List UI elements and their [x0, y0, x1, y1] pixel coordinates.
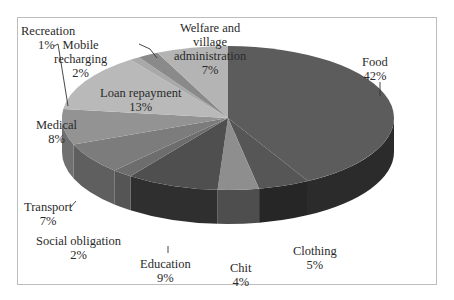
label-welfare-pct: 7% — [174, 63, 246, 77]
label-mobile-pct: 2% — [54, 66, 107, 80]
pie-side-chit — [218, 189, 260, 224]
label-transport-pct: 7% — [24, 214, 72, 228]
label-loan-pct: 13% — [100, 100, 182, 114]
label-clothing: Clothing 5% — [293, 244, 337, 272]
label-welfare-line1: Welfare and — [174, 21, 246, 35]
label-clothing-pct: 5% — [293, 258, 337, 272]
label-mobile-line1: Mobile — [54, 38, 107, 52]
label-social-name: Social obligation — [36, 234, 121, 248]
label-welfare-line2: village — [174, 35, 246, 49]
label-transport-name: Transport — [24, 200, 72, 214]
label-clothing-name: Clothing — [293, 244, 337, 258]
label-food-name: Food — [362, 55, 388, 69]
pie-side-social-obligation — [114, 170, 130, 210]
label-food-pct: 42% — [362, 69, 388, 83]
label-mobile-recharging: Mobile recharging 2% — [54, 38, 107, 80]
label-transport: Transport 7% — [24, 200, 72, 228]
label-welfare: Welfare and village administration 7% — [174, 21, 246, 77]
label-medical-pct: 8% — [36, 132, 77, 146]
label-education-pct: 9% — [140, 271, 191, 285]
label-medical: Medical 8% — [36, 118, 77, 146]
label-welfare-line3: administration — [174, 49, 246, 63]
label-food: Food 42% — [362, 55, 388, 83]
label-social-obligation: Social obligation 2% — [36, 234, 121, 262]
label-mobile-line2: recharging — [54, 52, 107, 66]
label-chit-name: Chit — [230, 261, 252, 275]
label-recreation-name: Recreation — [21, 24, 75, 38]
label-education: Education 9% — [140, 257, 191, 285]
label-chit-pct: 4% — [230, 275, 252, 289]
label-chit: Chit 4% — [230, 261, 252, 289]
label-education-name: Education — [140, 257, 191, 271]
label-social-pct: 2% — [36, 248, 121, 262]
label-medical-name: Medical — [36, 118, 77, 132]
label-loan-name: Loan repayment — [100, 86, 182, 100]
label-loan-repayment: Loan repayment 13% — [100, 86, 182, 114]
